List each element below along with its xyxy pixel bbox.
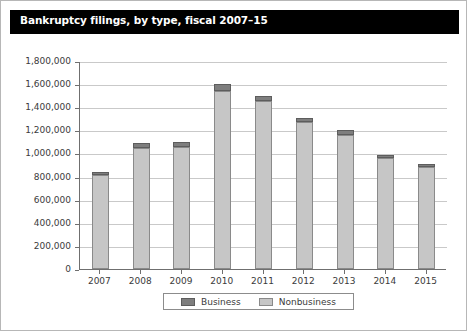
bar-segment-business[interactable] <box>214 84 231 91</box>
x-axis-tick-mark <box>99 270 100 274</box>
y-axis-tick-label: 1,200,000 <box>9 125 71 135</box>
bar-segment-business[interactable] <box>418 164 435 167</box>
x-axis-tick-label: 2007 <box>77 276 121 286</box>
legend-item-nonbusiness[interactable]: Nonbusiness <box>259 297 336 307</box>
x-axis-tick-mark <box>303 270 304 274</box>
bar-segment-nonbusiness[interactable] <box>296 122 313 269</box>
legend-swatch-business-icon <box>181 298 195 306</box>
y-axis-tick-label: 1,600,000 <box>9 79 71 89</box>
x-axis-tick-mark <box>385 270 386 274</box>
bar-segment-nonbusiness[interactable] <box>337 135 354 269</box>
legend-label-business: Business <box>201 297 241 307</box>
y-axis-tick-mark <box>75 270 79 271</box>
chart-title: Bankruptcy filings, by type, fiscal 2007… <box>20 14 268 26</box>
plot-area <box>79 62 446 270</box>
x-axis-tick-mark <box>344 270 345 274</box>
y-axis-tick-label: 800,000 <box>9 172 71 182</box>
x-axis-tick-mark <box>181 270 182 274</box>
y-axis-tick-label: 1,400,000 <box>9 102 71 112</box>
chart-figure: Bankruptcy filings, by type, fiscal 2007… <box>0 0 467 331</box>
y-axis-tick-label: 1,800,000 <box>9 56 71 66</box>
y-axis-tick-label: 200,000 <box>9 241 71 251</box>
bar-segment-business[interactable] <box>377 155 394 158</box>
x-axis-tick-mark <box>222 270 223 274</box>
bar-segment-business[interactable] <box>173 142 190 147</box>
bar-segment-business[interactable] <box>133 143 150 148</box>
y-axis-tick-label: 600,000 <box>9 195 71 205</box>
bar-segment-nonbusiness[interactable] <box>133 148 150 269</box>
bar-segment-nonbusiness[interactable] <box>92 175 109 269</box>
legend-item-business[interactable]: Business <box>181 297 241 307</box>
x-axis-tick-label: 2011 <box>241 276 285 286</box>
chart-legend: Business Nonbusiness <box>163 293 354 310</box>
bar-segment-nonbusiness[interactable] <box>173 147 190 269</box>
title-bar: Bankruptcy filings, by type, fiscal 2007… <box>10 10 459 34</box>
x-axis-tick-label: 2012 <box>281 276 325 286</box>
gridline <box>80 62 447 63</box>
x-axis-tick-mark <box>140 270 141 274</box>
bar-segment-nonbusiness[interactable] <box>377 158 394 270</box>
bar-segment-business[interactable] <box>92 172 109 175</box>
legend-label-nonbusiness: Nonbusiness <box>279 297 336 307</box>
bar-segment-business[interactable] <box>296 118 313 123</box>
y-axis-tick-label: 0 <box>9 264 71 274</box>
x-axis-tick-label: 2010 <box>200 276 244 286</box>
x-axis-tick-label: 2008 <box>118 276 162 286</box>
y-axis-tick-label: 1,000,000 <box>9 148 71 158</box>
x-axis-tick-label: 2015 <box>404 276 448 286</box>
x-axis-tick-mark <box>263 270 264 274</box>
gridline <box>80 85 447 86</box>
bar-segment-nonbusiness[interactable] <box>214 91 231 269</box>
y-axis-tick-label: 400,000 <box>9 218 71 228</box>
x-axis-tick-mark <box>426 270 427 274</box>
bar-segment-business[interactable] <box>255 96 272 102</box>
bar-segment-nonbusiness[interactable] <box>255 101 272 269</box>
legend-swatch-nonbusiness-icon <box>259 298 273 306</box>
x-axis-tick-label: 2013 <box>322 276 366 286</box>
bar-segment-nonbusiness[interactable] <box>418 167 435 269</box>
x-axis-tick-label: 2009 <box>159 276 203 286</box>
bar-segment-business[interactable] <box>337 130 354 135</box>
x-axis-tick-label: 2014 <box>363 276 407 286</box>
